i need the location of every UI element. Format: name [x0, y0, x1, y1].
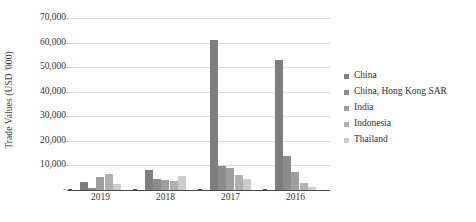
bar-chart: Trade Values (USD '000) -10,00020,00030,… [0, 0, 476, 222]
y-axis-tick-label: 20,000 [8, 136, 66, 146]
legend-item-label: Indonesia [354, 119, 391, 129]
y-axis-tick-label: 10,000 [8, 160, 66, 170]
x-axis-tick-mark [133, 189, 137, 190]
bar [300, 183, 308, 190]
legend-swatch-icon [344, 138, 349, 143]
bar [105, 174, 113, 190]
chart-legend: ChinaChina, Hong Kong SARIndiaIndonesiaT… [344, 68, 474, 148]
legend-swatch-icon [344, 122, 349, 127]
legend-swatch-icon [344, 90, 349, 95]
x-axis-tick-label: 2019 [68, 192, 133, 202]
x-axis-tick-label: 2017 [198, 192, 263, 202]
x-axis-tick-label: 2018 [133, 192, 198, 202]
legend-item[interactable]: India [344, 100, 474, 116]
bar [170, 181, 178, 190]
y-axis-tick-label: - [8, 185, 66, 194]
x-axis-tick-label: 2016 [263, 192, 328, 202]
x-axis-tick-mark [68, 189, 72, 190]
bar [178, 176, 186, 190]
bars-layer [68, 18, 328, 190]
bar [145, 170, 153, 190]
bar [113, 184, 121, 190]
y-axis-tick-label: 40,000 [8, 87, 66, 97]
bar [283, 156, 291, 190]
bar-group [275, 18, 316, 190]
bar [275, 60, 283, 190]
legend-swatch-icon [344, 106, 349, 111]
y-axis-tick-labels: -10,00020,00030,00040,00050,00060,00070,… [4, 18, 66, 190]
y-axis-tick-label: 70,000 [8, 13, 66, 23]
bar [291, 172, 299, 190]
x-axis-tick-mark [263, 189, 267, 190]
legend-item[interactable]: Thailand [344, 132, 474, 148]
legend-item[interactable]: Indonesia [344, 116, 474, 132]
bar [218, 166, 226, 190]
bar [96, 177, 104, 190]
bar-group [145, 18, 186, 190]
legend-swatch-icon [344, 74, 349, 79]
bar-group [80, 18, 121, 190]
bar [210, 40, 218, 190]
bar [226, 168, 234, 190]
y-axis-tick-label: 30,000 [8, 111, 66, 121]
legend-item[interactable]: China, Hong Kong SAR [344, 84, 474, 100]
bar [161, 180, 169, 190]
bar [243, 179, 251, 190]
bar [153, 179, 161, 190]
x-axis-tick-labels: 2019201820172016 [68, 192, 328, 208]
bar-group [210, 18, 251, 190]
legend-item-label: India [354, 103, 374, 113]
bar [80, 182, 88, 190]
x-axis-tick-mark [198, 189, 202, 190]
bar [88, 188, 96, 190]
legend-item[interactable]: China [344, 68, 474, 84]
legend-item-label: Thailand [354, 135, 388, 145]
legend-item-label: China, Hong Kong SAR [354, 87, 447, 97]
bar [235, 175, 243, 190]
y-axis-tick-label: 50,000 [8, 62, 66, 72]
y-axis-tick-label: 60,000 [8, 38, 66, 48]
bar [308, 187, 316, 190]
legend-item-label: China [354, 71, 377, 81]
